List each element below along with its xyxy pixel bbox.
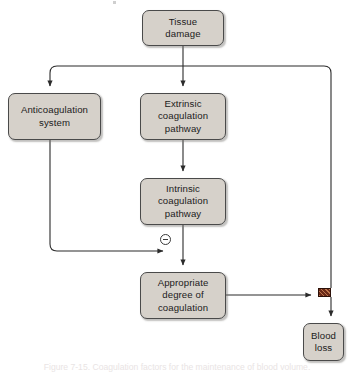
edge-branch-bus-left [50,66,183,86]
hatched-block-icon [318,288,331,297]
node-blood-loss[interactable]: Blood loss [303,323,344,361]
node-extrinsic-coagulation-pathway[interactable]: Extrinsic coagulation pathway [140,93,226,140]
node-appropriate-degree-of-coagulation-label: Appropriate degree of coagulation [156,277,211,314]
circled-minus-icon [160,234,171,245]
node-tissue-damage[interactable]: Tissue damage [142,10,224,46]
node-tissue-damage-label: Tissue damage [163,16,202,40]
flowchart-diagram: Tissue damage Anticoagulation system Ext… [0,0,354,373]
node-intrinsic-coagulation-pathway[interactable]: Intrinsic coagulation pathway [140,178,226,225]
node-extrinsic-coagulation-pathway-label: Extrinsic coagulation pathway [156,98,210,135]
node-appropriate-degree-of-coagulation[interactable]: Appropriate degree of coagulation [140,272,226,319]
page-artifact-speck [113,1,116,4]
figure-caption: Figure 7-15. Coagulation factors for the… [0,362,354,373]
node-blood-loss-label: Blood loss [309,330,338,354]
node-anticoagulation-system-label: Anticoagulation system [19,104,90,128]
node-anticoagulation-system[interactable]: Anticoagulation system [8,93,101,140]
node-intrinsic-coagulation-pathway-label: Intrinsic coagulation pathway [156,183,210,220]
